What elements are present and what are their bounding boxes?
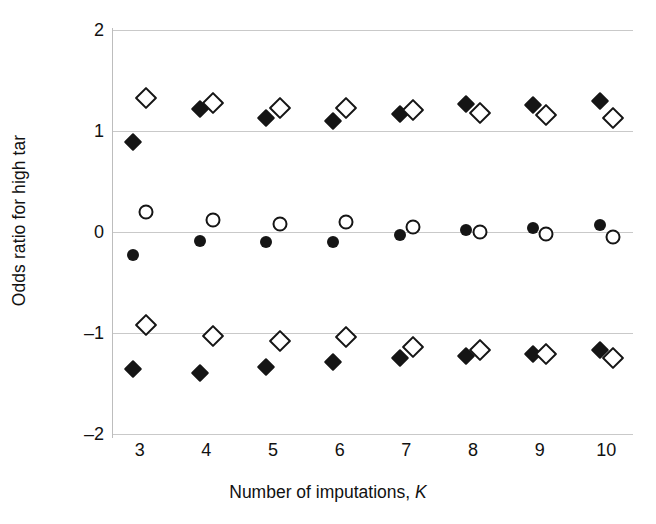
x-tick-label: 6 (320, 441, 360, 459)
x-axis-title-symbol: K (415, 482, 427, 502)
x-tick-label: 8 (453, 441, 493, 459)
x-axis-title: Number of imputations, K (0, 482, 656, 503)
x-tick-label: 9 (520, 441, 560, 459)
x-tick-label: 10 (586, 441, 626, 459)
x-axis-tick-labels: 345678910 (0, 0, 656, 524)
x-tick-label: 3 (120, 441, 160, 459)
x-axis-title-text: Number of imputations, (229, 482, 410, 502)
x-tick-label: 7 (386, 441, 426, 459)
x-tick-label: 4 (186, 441, 226, 459)
chart-figure: Odds ratio for high tar 210–1–2 34567891… (0, 0, 656, 524)
x-tick-label: 5 (253, 441, 293, 459)
